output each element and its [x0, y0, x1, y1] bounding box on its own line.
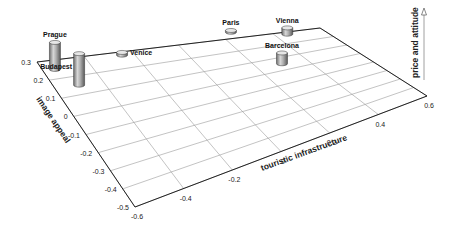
- bar-barcelona: Barcelona: [265, 42, 299, 66]
- y-tick-label: 0: [64, 113, 68, 120]
- x-tick-label: 0.4: [375, 121, 385, 128]
- y-tick-label: -0.2: [80, 150, 92, 157]
- city-label: Vienna: [276, 17, 299, 24]
- bar-venice: Venice: [117, 49, 153, 57]
- y-tick-label: 0.2: [34, 77, 44, 84]
- arrow-up-icon: [422, 8, 427, 15]
- y-tick-label: -0.3: [92, 168, 104, 175]
- z-axis-indicator: price and attitude: [410, 7, 427, 80]
- y-tick-label: -0.4: [105, 186, 117, 193]
- x-tick-label: -0.2: [228, 176, 240, 183]
- x-axis-label: touristic infrastructure: [259, 132, 348, 173]
- y-tick-label: -0.5: [117, 204, 129, 211]
- city-label: Venice: [130, 49, 152, 56]
- city-label: Budapest: [40, 63, 73, 71]
- 3d-bar-chart: 0.30.20.10-0.1-0.2-0.3-0.4-0.5 -0.6-0.4-…: [0, 0, 459, 228]
- bar-budapest: Budapest: [40, 52, 84, 87]
- city-label: Prague: [43, 31, 67, 39]
- city-label: Barcelona: [265, 42, 299, 49]
- bar-paris: Paris: [222, 19, 239, 34]
- y-tick-label: 0.3: [21, 59, 31, 66]
- city-label: Paris: [222, 19, 239, 26]
- x-tick-label: -0.6: [131, 213, 143, 220]
- x-tick-label: 0.6: [424, 102, 434, 109]
- x-tick-label: -0.4: [180, 195, 192, 202]
- data-bars: ParisVeniceViennaPragueBudapestBarcelona: [40, 17, 299, 87]
- z-axis-label: price and attitude: [410, 7, 420, 78]
